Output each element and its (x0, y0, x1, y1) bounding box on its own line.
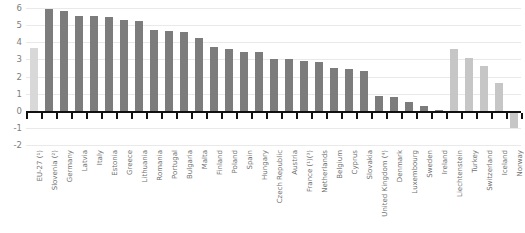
axis-tick (146, 113, 148, 119)
y-tick-label: 5 (2, 21, 22, 30)
x-axis-label: Spain (247, 150, 254, 170)
bar (315, 62, 323, 111)
x-axis-label: Netherlands (322, 150, 329, 193)
gridline--2 (26, 145, 521, 146)
bar (150, 30, 158, 110)
bar (480, 66, 488, 111)
x-axis-label: Liechtenstein (457, 150, 464, 197)
bar (405, 102, 413, 111)
axis-tick (506, 113, 508, 119)
bar (195, 38, 203, 111)
x-axis-labels: EU-27 (¹)Slovenia (²)GermanyLatviaItalyE… (26, 150, 521, 233)
x-axis-label: Ireland (442, 150, 449, 174)
axis-tick (521, 113, 523, 119)
x-axis-label: Lithuania (142, 150, 149, 182)
axis-tick (326, 113, 328, 119)
x-axis-label: Cyprus (352, 150, 359, 174)
axis-tick (86, 113, 88, 119)
axis-tick (221, 113, 223, 119)
bar (75, 16, 83, 111)
axis-tick (71, 113, 73, 119)
x-axis-label: Belgium (337, 150, 344, 179)
bar (510, 111, 518, 128)
x-axis-label: Hungary (262, 150, 269, 180)
axis-tick (281, 113, 283, 119)
bar (210, 47, 218, 111)
bar (225, 49, 233, 111)
x-axis-label: Italy (97, 150, 104, 165)
axis-tick (131, 113, 133, 119)
x-axis-label: Iceland (502, 150, 509, 175)
bar (45, 9, 53, 111)
x-axis-label: Estonia (112, 150, 119, 176)
bar (360, 71, 368, 111)
y-tick-label: 4 (2, 38, 22, 47)
axis-tick (476, 113, 478, 119)
x-axis-label: Bulgaria (187, 150, 194, 179)
bar (30, 48, 38, 111)
axis-tick (206, 113, 208, 119)
x-axis-label: Slovenia (²) (52, 150, 59, 190)
plot-area (26, 8, 521, 145)
axis-tick (491, 113, 493, 119)
y-tick-label: 6 (2, 4, 22, 13)
bar (330, 68, 338, 111)
axis-tick (56, 113, 58, 119)
bar (375, 96, 383, 111)
y-tick-label: 3 (2, 55, 22, 64)
axis-tick (176, 113, 178, 119)
bar-chart: 6543210-1-2 EU-27 (¹)Slovenia (²)Germany… (0, 0, 525, 233)
x-axis-label: Portugal (172, 150, 179, 179)
axis-tick (356, 113, 358, 119)
bar (285, 59, 293, 110)
x-axis-label: Romania (157, 150, 164, 181)
bar (165, 31, 173, 111)
axis-tick (101, 113, 103, 119)
bar (255, 52, 263, 111)
x-axis-label: Switzerland (487, 150, 494, 191)
x-axis-label: Austria (292, 150, 299, 175)
axis-tick (386, 113, 388, 119)
axis-tick (26, 113, 28, 119)
axis-tick (116, 113, 118, 119)
x-axis-label: Poland (232, 150, 239, 173)
axis-tick (401, 113, 403, 119)
axis-tick (266, 113, 268, 119)
axis-tick (341, 113, 343, 119)
y-tick-label: -1 (2, 124, 22, 133)
x-axis-label: Denmark (397, 150, 404, 182)
x-axis-label: Malta (202, 150, 209, 169)
x-axis-label: Czech Republic (277, 150, 284, 203)
axis-tick (416, 113, 418, 119)
axis-tick (296, 113, 298, 119)
y-tick-label: -2 (2, 141, 22, 150)
axis-tick (371, 113, 373, 119)
axis-tick (446, 113, 448, 119)
bar (60, 11, 68, 110)
axis-tick (191, 113, 193, 119)
bar (390, 97, 398, 111)
x-axis-label: Turkey (472, 150, 479, 173)
bar (180, 32, 188, 111)
bar (240, 52, 248, 111)
axis-tick (161, 113, 163, 119)
x-axis-label: Greece (127, 150, 134, 175)
x-axis-label: France (¹)(³) (307, 150, 314, 192)
x-axis-label: Germany (67, 150, 74, 182)
bar (495, 83, 503, 110)
bar (135, 21, 143, 111)
axis-tick (41, 113, 43, 119)
bar (120, 20, 128, 111)
bar (105, 17, 113, 111)
y-tick-label: 1 (2, 90, 22, 99)
bar-series (26, 8, 521, 145)
x-axis-label: United Kingdom (⁴) (382, 150, 389, 217)
y-tick-label: 2 (2, 73, 22, 82)
bar (345, 69, 353, 111)
x-axis-label: EU-27 (¹) (37, 150, 44, 181)
axis-tick (251, 113, 253, 119)
bar (300, 61, 308, 111)
x-axis-label: Finland (217, 150, 224, 175)
x-axis-label: Luxembourg (412, 150, 419, 194)
axis-tick (431, 113, 433, 119)
